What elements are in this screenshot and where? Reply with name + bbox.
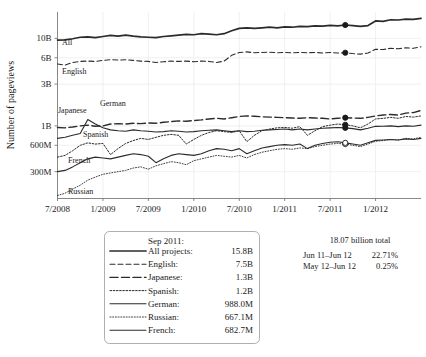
x-tick-label-2: 7/2009 [136, 204, 162, 214]
x-tick-label-1: 1/2009 [90, 204, 116, 214]
total-pageviews-note: 18.07 billion total [330, 235, 391, 245]
marker-english [343, 50, 348, 55]
legend: Sep 2011: All projects:15.8BEnglish:7.5B… [105, 232, 260, 344]
legend-value-2: 1.3B [236, 272, 253, 282]
legend-value-6: 682.7M [225, 325, 253, 335]
pageviews-chart: 10B6B3B1B600M300M 7/20081/20097/20091/20… [0, 0, 426, 357]
inline-label-all: All [62, 38, 73, 47]
legend-value-1: 7.5B [236, 259, 253, 269]
inline-label-russian: Russian [68, 187, 93, 196]
note-change-1: 0.25% [376, 261, 398, 271]
marker-french [343, 140, 348, 145]
inline-label-spanish: Spanish [83, 130, 108, 139]
marker-japanese [343, 115, 348, 120]
y-tick-label-1: 6B [41, 53, 52, 63]
x-tick-label-5: 1/2011 [272, 204, 297, 214]
y-tick-label-4: 600M [30, 140, 52, 150]
legend-label-2: Japanese: [148, 272, 182, 282]
legend-label-0: All projects: [148, 246, 193, 256]
x-tick-label-6: 7/2011 [318, 204, 343, 214]
legend-value-3: 1.2B [236, 286, 253, 296]
x-tick-label-4: 7/2010 [227, 204, 253, 214]
x-tick-label-3: 1/2010 [181, 204, 207, 214]
inline-label-german: German [100, 99, 126, 108]
legend-label-5: Russian: [148, 312, 179, 322]
inline-label-french: French [68, 156, 90, 165]
y-tick-label-5: 300M [30, 167, 52, 177]
y-tick-label-2: 3B [41, 79, 52, 89]
legend-value-5: 667.1M [225, 312, 253, 322]
inline-label-english: English [62, 67, 86, 76]
y-tick-label-3: 1B [41, 121, 52, 131]
x-tick-label-7: 1/2012 [363, 204, 388, 214]
legend-label-6: French: [148, 325, 176, 335]
legend-label-4: German: [148, 299, 180, 309]
legend-value-4: 988.0M [225, 299, 253, 309]
x-tick-label-0: 7/2008 [45, 204, 71, 214]
legend-header: Sep 2011: [148, 236, 184, 246]
marker-all-projects [343, 22, 348, 27]
y-axis-title: Number of pageviews [5, 61, 16, 149]
inline-label-japanese: Japanese [58, 106, 87, 115]
legend-value-0: 15.8B [231, 246, 253, 256]
legend-label-3: Spanish: [148, 286, 179, 296]
note-period-1: May 12–Jun 12 [303, 261, 356, 271]
note-change-0: 22.71% [372, 250, 398, 260]
legend-label-1: English: [148, 259, 178, 269]
y-tick-label-0: 10B [36, 33, 51, 43]
note-period-0: Jun 11–Jun 12 [303, 250, 352, 260]
chart-svg: 10B6B3B1B600M300M 7/20081/20097/20091/20… [0, 0, 426, 357]
marker-german [343, 125, 348, 130]
